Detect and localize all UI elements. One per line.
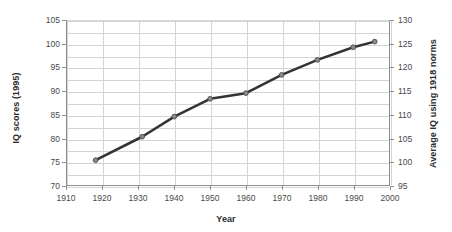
y-tickmark-left: [62, 115, 66, 116]
y-tickmark-left: [62, 139, 66, 140]
series-polyline: [96, 42, 375, 161]
y-tick-label-left: 95: [34, 62, 60, 72]
y-tick-label-left: 75: [34, 157, 60, 167]
x-tickmark: [138, 186, 139, 190]
data-point-marker: [208, 96, 213, 101]
x-tickmark: [318, 186, 319, 190]
y-tickmark-left: [62, 20, 66, 21]
data-point-marker: [279, 73, 284, 78]
x-tickmark: [174, 186, 175, 190]
data-point-marker: [315, 58, 320, 63]
gridline-vertical: [391, 21, 392, 185]
chart-figure: IQ scores (1995) Average IQ using 1918 n…: [0, 0, 452, 232]
y-tickmark-left: [62, 91, 66, 92]
y-tickmark-right: [390, 67, 394, 68]
y-tickmark-left: [62, 67, 66, 68]
x-tick-label: 1910: [49, 193, 83, 203]
data-point-marker: [93, 158, 98, 163]
y-tick-label-right: 95: [398, 181, 424, 191]
data-point-marker: [372, 39, 377, 44]
x-tick-label: 1950: [193, 193, 227, 203]
y-tick-label-left: 80: [34, 134, 60, 144]
plot-area: [66, 20, 390, 186]
x-tickmark: [354, 186, 355, 190]
data-series-line: [67, 21, 389, 185]
y-axis-label-left: IQ scores (1995): [11, 48, 21, 168]
y-tickmark-right: [390, 20, 394, 21]
data-point-marker: [140, 134, 145, 139]
y-tickmark-right: [390, 115, 394, 116]
x-tickmark: [390, 186, 391, 190]
x-tickmark: [102, 186, 103, 190]
y-tickmark-left: [62, 162, 66, 163]
y-axis-label-right: Average IQ using 1918 norms: [428, 48, 438, 168]
x-tickmark: [66, 186, 67, 190]
y-tick-label-right: 110: [398, 110, 424, 120]
x-tickmark: [210, 186, 211, 190]
y-tick-label-left: 85: [34, 110, 60, 120]
gridline-horizontal: [67, 187, 389, 188]
y-tick-label-left: 90: [34, 86, 60, 96]
y-tickmark-right: [390, 44, 394, 45]
x-tick-label: 1980: [301, 193, 335, 203]
data-point-marker: [244, 91, 249, 96]
y-tick-label-right: 130: [398, 15, 424, 25]
x-tick-label: 1920: [85, 193, 119, 203]
data-point-marker: [351, 45, 356, 50]
x-tick-label: 2000: [373, 193, 407, 203]
y-tick-label-right: 115: [398, 86, 424, 96]
x-tick-label: 1970: [265, 193, 299, 203]
x-tick-label: 1940: [157, 193, 191, 203]
y-tick-label-right: 100: [398, 157, 424, 167]
y-tickmark-right: [390, 91, 394, 92]
y-tick-label-left: 105: [34, 15, 60, 25]
y-tickmark-right: [390, 139, 394, 140]
y-tickmark-left: [62, 44, 66, 45]
x-tick-label: 1990: [337, 193, 371, 203]
y-tick-label-left: 70: [34, 181, 60, 191]
x-axis-label: Year: [0, 214, 452, 224]
data-point-marker: [172, 114, 177, 119]
x-tickmark: [282, 186, 283, 190]
y-tick-label-right: 125: [398, 39, 424, 49]
x-tick-label: 1960: [229, 193, 263, 203]
y-tick-label-right: 105: [398, 134, 424, 144]
x-tick-label: 1930: [121, 193, 155, 203]
y-tick-label-left: 100: [34, 39, 60, 49]
y-tick-label-right: 120: [398, 62, 424, 72]
y-tickmark-right: [390, 162, 394, 163]
x-tickmark: [246, 186, 247, 190]
